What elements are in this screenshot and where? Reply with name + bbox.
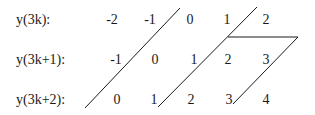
row-3k2-value: 4 <box>256 92 276 108</box>
row-3k2-value: 1 <box>144 92 164 108</box>
row-3k1-value: 1 <box>184 52 204 68</box>
row-3k-value: 0 <box>180 12 200 28</box>
row-3k2-value: 3 <box>219 92 239 108</box>
diagonal-line-1 <box>85 8 180 108</box>
row-3k1-value: 3 <box>256 52 276 68</box>
polyphase-index-diagram: y(3k): -2 -1 0 1 2 y(3k+1): -1 0 1 2 3 y… <box>0 0 315 115</box>
row-3k2-value: 2 <box>181 92 201 108</box>
row-3k1-value: 0 <box>145 52 165 68</box>
row-3k-value: 1 <box>217 12 237 28</box>
row-3k-value: 2 <box>256 12 276 28</box>
row-3k-value: -2 <box>102 12 122 28</box>
row-3k-value: -1 <box>140 12 160 28</box>
row-3k1-value: 2 <box>218 52 238 68</box>
row-label-3k: y(3k): <box>16 12 50 28</box>
diagonal-line-2 <box>158 7 257 107</box>
row-3k2-value: 0 <box>107 92 127 108</box>
row-3k1-value: -1 <box>106 52 126 68</box>
row-label-3k2: y(3k+2): <box>16 92 65 108</box>
row-label-3k1: y(3k+1): <box>16 52 65 68</box>
